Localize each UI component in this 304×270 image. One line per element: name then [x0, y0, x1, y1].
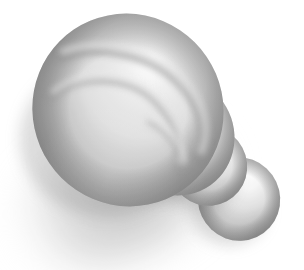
shell-render-canvas	[0, 0, 304, 270]
image-canvas-root: Grayscale 3D Shell Render Grayscale rend…	[0, 0, 304, 270]
